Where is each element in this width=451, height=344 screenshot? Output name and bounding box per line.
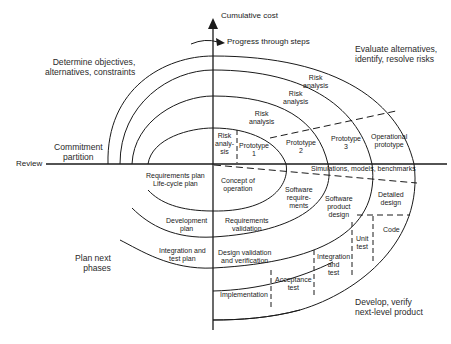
- progress-arrowhead-icon: [216, 38, 225, 46]
- prototype-2: Prototype 2: [286, 139, 316, 155]
- software-product-design: Software product design: [325, 195, 353, 219]
- review-label: Review: [16, 159, 42, 168]
- requirements-plan-label: Requirements plan Life-cycle plan: [146, 172, 205, 188]
- integration-test-plan-label: Integration and test plan: [159, 247, 206, 263]
- cumulative-cost-label: Cumulative cost: [221, 11, 278, 20]
- commitment-partition-label: Commitment partition: [54, 143, 103, 163]
- concept-of-operation: Concept of operation: [221, 177, 255, 193]
- design-validation: Design validation and verification: [218, 249, 271, 265]
- unit-test: Unit test: [356, 235, 368, 251]
- risk-analysis-4: Risk analysis: [303, 74, 328, 90]
- operational-prototype: Operational prototype: [371, 133, 407, 149]
- detailed-design: Detailed design: [378, 191, 404, 207]
- software-requirements: Software require- ments: [285, 186, 313, 210]
- development-plan-label: Development plan: [166, 217, 207, 233]
- integration-and-test: Integration and test: [317, 253, 350, 277]
- quadrant-label-determine: Determine objectives, alternatives, cons…: [45, 58, 135, 78]
- risk-analysis-1: Risk analy- sis: [215, 132, 234, 156]
- progress-label: Progress through steps: [227, 37, 310, 46]
- spiral-loop-tail: [213, 310, 300, 320]
- progress-arrow-icon: [191, 40, 218, 44]
- quadrant-label-plan: Plan next phases: [75, 254, 111, 274]
- risk-analysis-2: Risk analysis: [249, 110, 274, 126]
- quadrant-label-develop: Develop, verify next-level product: [355, 298, 423, 318]
- simulations-label: Simulations, models, benchmarks: [311, 165, 416, 173]
- prototype-3: Prototype 3: [331, 135, 361, 151]
- quadrant-label-evaluate: Evaluate alternatives, identify, resolve…: [355, 45, 437, 65]
- requirements-validation: Requirements validation: [225, 217, 269, 233]
- cumulative-cost-arrowhead-icon: [208, 18, 218, 29]
- risk-analysis-3: Risk analysis: [283, 90, 308, 106]
- acceptance-test: Acceptance test: [275, 276, 312, 292]
- implementation: Implementation: [220, 291, 268, 299]
- prototype-1: Prototype 1: [239, 142, 269, 158]
- code: Code: [383, 226, 400, 234]
